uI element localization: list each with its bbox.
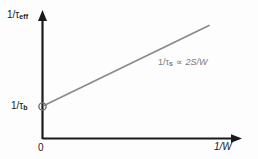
plot-canvas bbox=[0, 0, 258, 159]
x-axis-arrowhead bbox=[231, 134, 242, 143]
y-axis-arrowhead bbox=[38, 10, 47, 21]
annotation-expression: 2S/W bbox=[185, 57, 207, 67]
y-intercept-label: 1/τb bbox=[11, 101, 28, 111]
trend-line-annotation: 1/τs∝2S/W bbox=[158, 58, 207, 67]
annotation-subscript: s bbox=[169, 60, 173, 67]
annotation-prefix: 1/ bbox=[158, 57, 166, 67]
y-intercept-subscript: b bbox=[23, 104, 27, 111]
y-axis-label: 1/τeff bbox=[7, 10, 28, 20]
annotation-relation: ∝ bbox=[176, 57, 182, 67]
figure-container: 1/τeff 1/τb 0 1/W 1/τs∝2S/W bbox=[0, 0, 258, 159]
y-axis-label-subscript: eff bbox=[19, 13, 28, 20]
origin-label: 0 bbox=[38, 143, 44, 153]
x-axis-label: 1/W bbox=[214, 142, 232, 152]
